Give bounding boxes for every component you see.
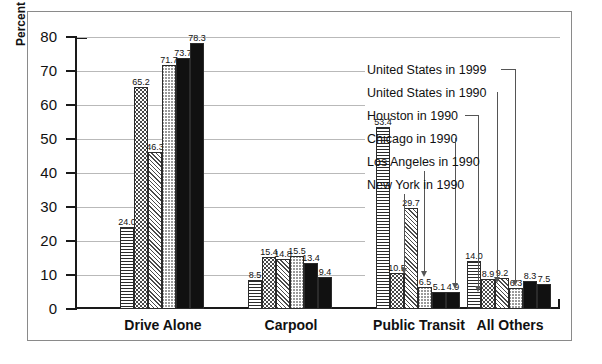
y-tick bbox=[66, 240, 77, 242]
bar: 78.3 bbox=[190, 43, 204, 309]
leader-arrowhead bbox=[512, 280, 518, 286]
bar: 8.9 bbox=[481, 279, 495, 309]
bar: 29.7 bbox=[404, 208, 418, 309]
leader-line bbox=[515, 69, 516, 280]
bar: 65.2 bbox=[134, 87, 148, 309]
bar: 9.4 bbox=[318, 277, 332, 309]
chart-figure: Percent 24.065.246.371.773.778.38.515.41… bbox=[0, 0, 602, 364]
gridline bbox=[75, 207, 365, 208]
y-tick-label: 20 bbox=[0, 233, 57, 248]
leader-line bbox=[501, 69, 515, 70]
bar-value-label: 13.4 bbox=[302, 254, 320, 263]
bar: 24.0 bbox=[120, 227, 134, 309]
y-tick bbox=[66, 274, 77, 276]
bar-value-label: 14.0 bbox=[465, 252, 483, 261]
y-tick bbox=[66, 36, 77, 38]
gridline bbox=[75, 105, 365, 106]
leader-line bbox=[478, 115, 479, 286]
bar: 71.7 bbox=[162, 65, 176, 309]
bar-value-label: 5.1 bbox=[433, 283, 446, 292]
y-tick bbox=[66, 138, 77, 140]
legend-label: Los Angeles in 1990 bbox=[367, 156, 480, 169]
y-tick-label: 60 bbox=[0, 97, 57, 112]
bar: 5.1 bbox=[432, 292, 446, 309]
leader-line bbox=[465, 115, 478, 116]
y-tick bbox=[66, 104, 77, 106]
leader-arrowhead bbox=[421, 271, 427, 277]
leader-arrowhead bbox=[452, 283, 458, 289]
category-label: All Others bbox=[430, 317, 590, 333]
bar: 6.5 bbox=[418, 287, 432, 309]
legend-label: Houston in 1990 bbox=[367, 110, 458, 123]
gridline bbox=[75, 173, 365, 174]
bar-value-label: 78.3 bbox=[188, 34, 206, 43]
legend-label: United States in 1999 bbox=[367, 64, 487, 77]
y-tick bbox=[66, 308, 77, 310]
y-tick-label: 10 bbox=[0, 267, 57, 282]
bar: 15.4 bbox=[262, 257, 276, 309]
bar-value-label: 9.4 bbox=[319, 268, 332, 277]
bar: 8.3 bbox=[523, 281, 537, 309]
leader-line bbox=[497, 92, 498, 277]
gridline bbox=[75, 139, 365, 140]
bar: 15.5 bbox=[290, 256, 304, 309]
bar-value-label: 8.9 bbox=[482, 270, 495, 279]
leader-arrowhead bbox=[475, 286, 481, 292]
y-tick bbox=[66, 70, 77, 72]
legend-label: United States in 1990 bbox=[367, 87, 487, 100]
leader-line bbox=[404, 194, 405, 268]
bar-value-label: 7.5 bbox=[538, 275, 551, 284]
gridline bbox=[75, 241, 365, 242]
bar-value-label: 6.5 bbox=[419, 278, 432, 287]
bar: 10.5 bbox=[390, 273, 404, 309]
plot-area: 24.065.246.371.773.778.38.515.414.815.51… bbox=[75, 37, 560, 309]
bar: 4.9 bbox=[446, 292, 460, 309]
legend-label: Chicago in 1990 bbox=[367, 133, 457, 146]
gridline bbox=[75, 37, 560, 38]
y-tick-label: 30 bbox=[0, 199, 57, 214]
bar: 8.5 bbox=[248, 280, 262, 309]
y-tick-label: 0 bbox=[0, 301, 57, 316]
bar: 14.8 bbox=[276, 259, 290, 309]
y-tick-label: 50 bbox=[0, 131, 57, 146]
legend-label: New York in 1990 bbox=[367, 179, 464, 192]
gridline bbox=[75, 71, 365, 72]
y-tick bbox=[66, 172, 77, 174]
y-tick-label: 80 bbox=[0, 29, 57, 44]
x-axis-end-cap bbox=[558, 299, 560, 309]
leader-arrowhead bbox=[494, 277, 500, 283]
bar: 46.3 bbox=[148, 152, 162, 309]
y-tick bbox=[66, 206, 77, 208]
leader-arrowhead bbox=[401, 268, 407, 274]
bar-value-label: 8.5 bbox=[249, 271, 262, 280]
bar-value-label: 65.2 bbox=[132, 78, 150, 87]
bar-value-label: 8.3 bbox=[524, 272, 537, 281]
bar: 13.4 bbox=[304, 263, 318, 309]
bar: 7.5 bbox=[537, 284, 551, 310]
bar: 6.3 bbox=[509, 288, 523, 309]
y-tick-label: 70 bbox=[0, 63, 57, 78]
bar: 73.7 bbox=[176, 58, 190, 309]
y-tick-label: 40 bbox=[0, 165, 57, 180]
